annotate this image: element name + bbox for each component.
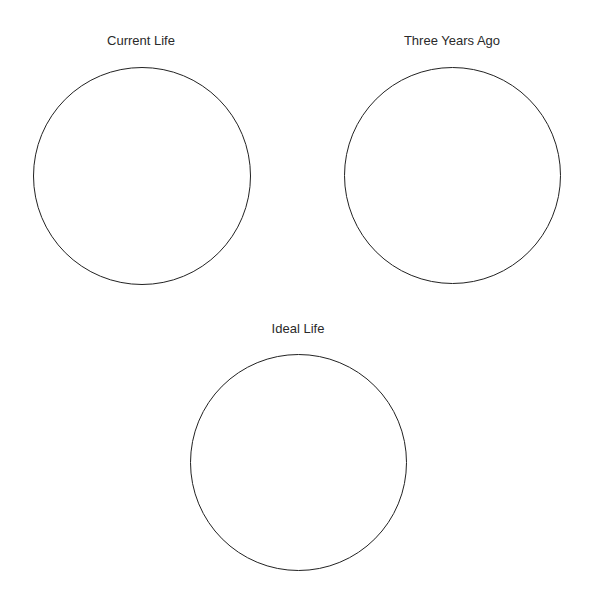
circle-label-three-years-ago: Three Years Ago [404,34,500,47]
circle-label-ideal-life: Ideal Life [272,322,325,335]
circle-ideal-life [190,354,407,571]
circle-label-current-life: Current Life [107,34,175,47]
circle-three-years-ago [344,67,561,284]
circle-current-life [33,67,251,285]
